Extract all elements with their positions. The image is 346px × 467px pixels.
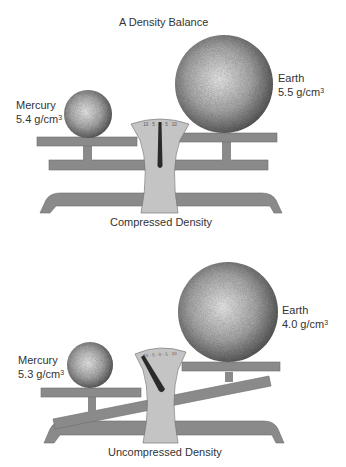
mercury-sphere [67,342,113,388]
right-stem [222,142,231,161]
right-pan [178,133,277,142]
diagram-title: A Density Balance [119,16,208,29]
left-pan [41,388,141,397]
earth-label-bottom: Earth [282,304,308,317]
density-balance-diagram: 10 · 5 · 0 · 5 · 10 10 · 5 · 0 · 5 · 10 [0,0,346,467]
mercury-label-bottom: Mercury [18,354,58,367]
earth-sphere [175,35,273,133]
mercury-sphere [64,90,112,138]
left-stem [88,397,96,413]
mercury-density-bottom: 5.3 g/cm3 [18,368,64,381]
right-pan [182,362,280,371]
earth-density-top: 5.5 g/cm3 [278,86,324,99]
right-stem [225,372,233,382]
caption-compressed: Compressed Density [110,216,212,229]
earth-density-bottom: 4.0 g/cm3 [282,318,328,331]
mercury-label-top: Mercury [16,99,56,112]
earth-sphere [178,262,278,362]
earth-label-top: Earth [278,72,304,85]
left-pan [37,137,137,146]
caption-uncompressed: Uncompressed Density [108,446,222,459]
compressed-balance: 10 · 5 · 0 · 5 · 10 [37,35,282,213]
uncompressed-balance: 10 · 5 · 0 · 5 · 10 [41,262,284,443]
mercury-density-top: 5.4 g/cm3 [16,113,62,126]
left-stem [83,146,92,161]
